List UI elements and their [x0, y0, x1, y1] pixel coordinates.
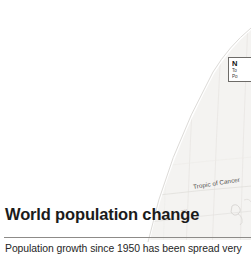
article-standfirst: Population growth since 1950 has been sp… — [5, 242, 251, 255]
callout-title: N — [232, 60, 251, 68]
page-root: Tropic of Cancer 20° N To Po World popul… — [0, 0, 251, 258]
callout-line-2: Po — [232, 74, 251, 80]
page-title: World population change — [5, 205, 199, 224]
article-text-block: World population change Population growt… — [0, 200, 251, 258]
map-parallel — [162, 157, 251, 166]
map-callout-box[interactable]: N To Po — [228, 57, 251, 82]
map-label-tropic-of-cancer: Tropic of Cancer — [192, 176, 240, 190]
map-parallel-tropic — [150, 186, 251, 196]
horizontal-rule — [4, 237, 251, 238]
